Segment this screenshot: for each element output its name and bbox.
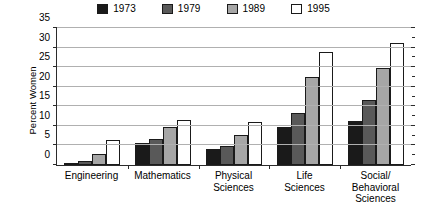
y-tick-label-15: 15 — [39, 91, 50, 101]
plot-area: 05101520253035 — [56, 28, 411, 166]
y-tick-right-30 — [411, 47, 415, 48]
gridline-20 — [57, 86, 411, 87]
legend-label-1973: 1973 — [113, 4, 136, 14]
bar-1973 — [277, 127, 291, 165]
x-axis-label-3: LifeSciences — [269, 170, 340, 205]
x-group-separator-2 — [199, 165, 200, 169]
y-tick-0 — [53, 164, 57, 165]
bar-1979 — [291, 113, 305, 165]
x-axis-label-line: Physical — [198, 170, 269, 182]
y-minor-tick-right-7.5 — [412, 135, 415, 136]
bar-1989 — [376, 68, 390, 165]
y-tick-15 — [53, 105, 57, 106]
y-tick-35 — [53, 27, 57, 28]
bar-1979 — [78, 161, 92, 165]
bar-1995 — [319, 52, 333, 165]
bar-1989 — [234, 135, 248, 165]
legend-swatch-1989 — [227, 4, 238, 14]
y-tick-label-25: 25 — [39, 52, 50, 62]
y-tick-label-35: 35 — [39, 13, 50, 23]
y-tick-25 — [53, 66, 57, 67]
gridline-30 — [57, 47, 411, 48]
y-tick-label-5: 5 — [44, 130, 50, 140]
x-group-separator-3 — [269, 165, 270, 169]
x-axis-label-line: Sciences — [198, 182, 269, 194]
legend-item-1989: 1989 — [227, 4, 266, 14]
y-tick-label-30: 30 — [39, 33, 50, 43]
y-minor-tick-right-17.5 — [412, 96, 415, 97]
bar-1979 — [220, 146, 234, 165]
gridline-15 — [57, 105, 411, 106]
bar-1979 — [149, 139, 163, 165]
y-minor-tick-right-32.5 — [412, 37, 415, 38]
y-tick-right-25 — [411, 66, 415, 67]
x-axis-label-line: Engineering — [56, 170, 127, 182]
x-axis-label-line: Behavioral — [340, 182, 411, 194]
y-axis-title: Percent Women — [27, 41, 38, 161]
y-tick-5 — [53, 144, 57, 145]
x-axis-label-4: Social/BehavioralSciences — [340, 170, 411, 205]
x-group-separator-4 — [340, 165, 341, 169]
y-tick-right-20 — [411, 86, 415, 87]
legend-label-1979: 1979 — [178, 4, 201, 14]
bar-1989 — [305, 77, 319, 165]
y-tick-30 — [53, 47, 57, 48]
bar-1973 — [135, 143, 149, 165]
bar-1995 — [177, 120, 191, 165]
x-axis-labels: EngineeringMathematicsPhysicalSciencesLi… — [56, 170, 411, 205]
legend-swatch-1979 — [162, 4, 173, 14]
chart-container: 1973197919891995 Percent Women 051015202… — [0, 0, 427, 214]
y-tick-label-20: 20 — [39, 72, 50, 82]
legend-swatch-1995 — [291, 4, 302, 14]
y-tick-right-5 — [411, 144, 415, 145]
x-axis-label-line: Mathematics — [127, 170, 198, 182]
y-tick-label-0: 0 — [44, 150, 50, 160]
y-tick-right-15 — [411, 105, 415, 106]
y-tick-20 — [53, 86, 57, 87]
bar-1979 — [362, 100, 376, 165]
legend-label-1995: 1995 — [307, 4, 330, 14]
gridline-35 — [57, 27, 411, 28]
y-minor-tick-right-22.5 — [412, 76, 415, 77]
x-axis-label-line: Sciences — [269, 182, 340, 194]
gridline-25 — [57, 66, 411, 67]
x-axis-label-1: Mathematics — [127, 170, 198, 205]
x-axis-label-line: Sciences — [340, 193, 411, 205]
x-axis-label-2: PhysicalSciences — [198, 170, 269, 205]
y-minor-tick-right-12.5 — [412, 115, 415, 116]
y-minor-tick-right-27.5 — [412, 56, 415, 57]
x-axis-label-line: Life — [269, 170, 340, 182]
x-axis-label-0: Engineering — [56, 170, 127, 205]
bar-1973 — [64, 163, 78, 165]
legend-item-1973: 1973 — [97, 4, 136, 14]
bar-1973 — [206, 149, 220, 165]
y-tick-10 — [53, 125, 57, 126]
x-group-separator-1 — [128, 165, 129, 169]
x-axis-label-line: Social/ — [340, 170, 411, 182]
bar-1989 — [163, 127, 177, 165]
legend-item-1995: 1995 — [291, 4, 330, 14]
legend-label-1989: 1989 — [243, 4, 266, 14]
bar-1973 — [348, 121, 362, 165]
y-tick-label-10: 10 — [39, 111, 50, 121]
gridline-10 — [57, 125, 411, 126]
y-tick-right-0 — [411, 164, 415, 165]
y-tick-right-35 — [411, 27, 415, 28]
bar-1995 — [390, 43, 404, 165]
y-minor-tick-right-2.5 — [412, 154, 415, 155]
gridline-5 — [57, 144, 411, 145]
bar-1989 — [92, 154, 106, 165]
legend-swatch-1973 — [97, 4, 108, 14]
chart-legend: 1973197919891995 — [0, 4, 427, 14]
y-tick-right-10 — [411, 125, 415, 126]
legend-item-1979: 1979 — [162, 4, 201, 14]
